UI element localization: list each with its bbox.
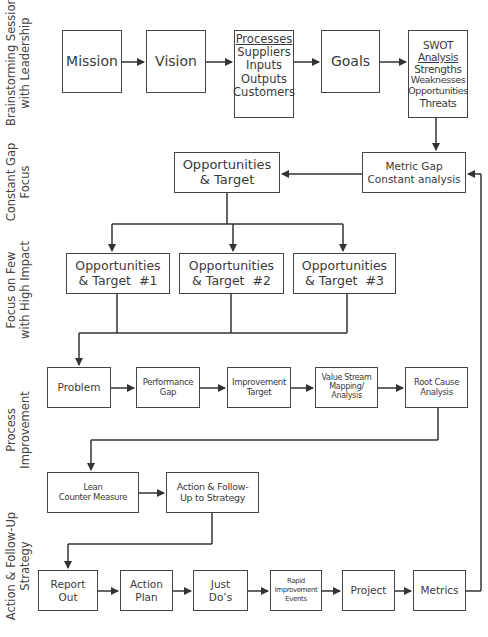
improvement-target-box: Improvement Target — [227, 367, 291, 408]
lane-label-action-followup: Action & Follow-Up Strategy — [5, 496, 33, 636]
lane-label-focus-few: Focus on Few with High Impact — [5, 240, 33, 340]
lane-label-brainstorming: Brainstorming Session with Leadership — [5, 0, 33, 126]
just-dos-box: Just Do’s — [193, 570, 248, 611]
report-out-box: Report Out — [38, 570, 98, 611]
metrics-box: Metrics — [413, 570, 466, 611]
mission-box: Mission — [62, 30, 122, 93]
lane-label-constant-gap: Constant Gap Focus — [5, 142, 33, 222]
performance-gap-box: Performance Gap — [136, 367, 200, 408]
opportunities-target-2-box: Opportunities & Target #2 — [179, 253, 284, 294]
opportunities-target-3-box: Opportunities & Target #3 — [293, 253, 396, 294]
rapid-improvement-events-box: Rapid Improvement Events — [270, 570, 322, 611]
metric-gap-box: Metric Gap Constant analysis — [362, 152, 466, 193]
lean-counter-measure-box: Lean Counter Measure — [47, 472, 139, 513]
project-box: Project — [342, 570, 395, 611]
value-stream-mapping-box: Value Stream Mapping/ Analysis — [315, 367, 378, 408]
vision-box: Vision — [146, 30, 206, 93]
lane-label-process-improvement: Process Improvement — [5, 385, 33, 475]
processes-box: Processes Suppliers Inputs Outputs Custo… — [234, 30, 294, 118]
root-cause-analysis-box: Root Cause Analysis — [405, 367, 468, 408]
swot-analysis-box: SWOT Analysis Strengths Weaknesses Oppor… — [408, 30, 468, 118]
problem-box: Problem — [47, 367, 111, 408]
opportunities-target-box: Opportunities & Target — [174, 152, 280, 193]
opportunities-target-1-box: Opportunities & Target #1 — [66, 253, 170, 294]
action-follow-up-strategy-box: Action & Follow- Up to Strategy — [166, 472, 259, 513]
goals-box: Goals — [321, 30, 380, 93]
action-plan-box: Action Plan — [120, 570, 173, 611]
